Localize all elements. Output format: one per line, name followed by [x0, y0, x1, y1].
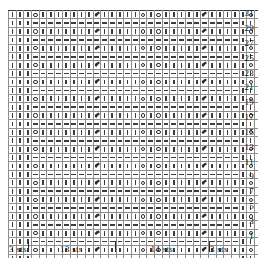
chart-cell: [132, 120, 140, 128]
chart-cell: [178, 111, 186, 119]
chart-cell: [108, 27, 116, 35]
purl-stitch-icon: [78, 154, 85, 161]
knit-stitch-icon: [170, 146, 177, 153]
decrease-icon: [94, 230, 101, 237]
knit-stitch-icon: [63, 179, 70, 186]
purl-stitch-icon: [163, 204, 170, 211]
purl-stitch-icon: [32, 19, 39, 26]
chart-row: [9, 103, 259, 111]
decrease-icon: [94, 95, 101, 102]
chart-cell: [85, 187, 93, 195]
knit-stitch-icon: [109, 230, 116, 237]
knit-stitch-icon: [124, 146, 131, 153]
chart-cell: [9, 187, 17, 195]
yarn-over-icon: [140, 146, 147, 153]
chart-cell: [170, 170, 178, 178]
yarn-over-icon: [32, 146, 39, 153]
purl-stitch-icon: [109, 53, 116, 60]
purl-stitch-icon: [109, 87, 116, 94]
knit-stitch-icon: [55, 146, 62, 153]
purl-stitch-icon: [147, 120, 154, 127]
knit-stitch-icon: [132, 11, 139, 18]
purl-stitch-icon: [163, 53, 170, 60]
purl-stitch-icon: [132, 204, 139, 211]
chart-cell: [132, 137, 140, 145]
chart-cell: [116, 78, 124, 86]
chart-cell: [39, 95, 47, 103]
chart-cell: [147, 11, 155, 19]
chart-cell: [47, 11, 55, 19]
knit-stitch-icon: [9, 103, 16, 110]
chart-cell: [185, 204, 193, 212]
knit-stitch-icon: [9, 61, 16, 68]
chart-cell: [62, 95, 70, 103]
row-number-label: 13: [244, 143, 254, 152]
purl-stitch-icon: [186, 154, 193, 161]
chart-cell: [108, 61, 116, 69]
purl-stitch-icon: [109, 103, 116, 110]
chart-cell: [216, 61, 224, 69]
knit-stitch-icon: [40, 112, 47, 119]
chart-cell: [9, 170, 17, 178]
chart-cell: [24, 27, 32, 35]
purl-stitch-icon: [71, 103, 78, 110]
chart-cell: [62, 137, 70, 145]
purl-stitch-icon: [124, 171, 131, 178]
chart-cell: [32, 179, 40, 187]
chart-cell: [55, 162, 63, 170]
purl-stitch-icon: [32, 204, 39, 211]
chart-cell: [47, 19, 55, 27]
chart-cell: [216, 11, 224, 19]
chart-cell: [9, 44, 17, 52]
decrease-icon: [201, 179, 208, 186]
knit-stitch-icon: [186, 11, 193, 18]
chart-cell: [85, 229, 93, 237]
chart-row: [9, 111, 259, 119]
chart-cell: [178, 162, 186, 170]
chart-cell: [93, 69, 101, 77]
purl-stitch-icon: [117, 154, 124, 161]
purl-stitch-icon: [71, 36, 78, 43]
chart-cell: [139, 53, 147, 61]
knit-stitch-icon: [124, 129, 131, 136]
chart-cell: [170, 95, 178, 103]
purl-stitch-icon: [32, 188, 39, 195]
chart-cell: [201, 153, 209, 161]
knit-stitch-icon: [117, 213, 124, 220]
knit-stitch-icon: [163, 11, 170, 18]
knit-stitch-icon: [186, 230, 193, 237]
chart-cell: [116, 204, 124, 212]
purl-stitch-icon: [101, 137, 108, 144]
chart-cell: [101, 53, 109, 61]
chart-cell: [178, 221, 186, 229]
chart-row: [9, 212, 259, 220]
chart-cell: [178, 153, 186, 161]
section-divider-tick: [28, 241, 29, 252]
chart-cell: [162, 204, 170, 212]
chart-cell: [32, 27, 40, 35]
knit-stitch-icon: [178, 61, 185, 68]
knit-stitch-icon: [117, 162, 124, 169]
knit-stitch-icon: [163, 61, 170, 68]
purl-stitch-icon: [155, 87, 162, 94]
chart-cell: [16, 44, 24, 52]
chart-cell: [178, 170, 186, 178]
purl-stitch-icon: [117, 221, 124, 228]
knit-stitch-icon: [217, 61, 224, 68]
purl-stitch-icon: [147, 221, 154, 228]
chart-cell: [132, 111, 140, 119]
chart-cell: [116, 137, 124, 145]
chart-cell: [24, 111, 32, 119]
row-number-label: 1: [249, 232, 254, 241]
row-number-label: 7: [249, 187, 254, 196]
chart-cell: [78, 69, 86, 77]
knit-stitch-icon: [170, 196, 177, 203]
chart-cell: [162, 103, 170, 111]
chart-cell: [124, 86, 132, 94]
yarn-over-icon: [140, 61, 147, 68]
purl-stitch-icon: [224, 154, 231, 161]
chart-cell: [101, 11, 109, 19]
yarn-over-icon: [155, 11, 162, 18]
purl-stitch-icon: [170, 204, 177, 211]
stitch-count-label: 3 sts: [9, 244, 27, 254]
